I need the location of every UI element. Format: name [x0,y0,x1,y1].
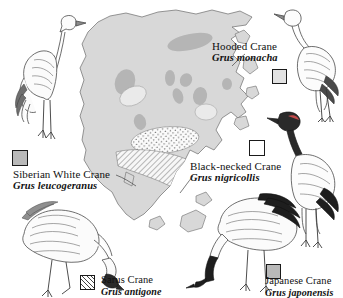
label-leader-lines [0,0,343,298]
leader-line-black-necked-crane [180,176,193,193]
leader-line-siberian-white-crane [116,175,136,186]
crane-distribution-plate: Siberian White Crane Grus leucogeranus H… [0,0,343,298]
leader-line-hooded-crane [232,54,245,66]
